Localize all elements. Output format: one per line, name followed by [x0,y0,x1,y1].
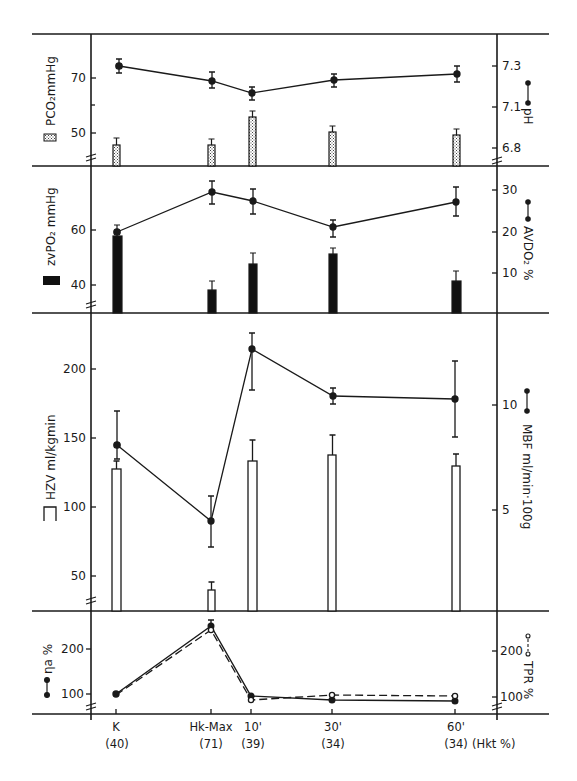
axis-breaks [86,154,502,710]
ticks [86,66,497,714]
panel-2-avdo2-line [114,181,459,237]
svg-text:(Hkt %): (Hkt %) [472,737,515,751]
panel-1-ph-line [116,59,460,100]
svg-text:pH: pH [521,108,535,125]
svg-text:TPR %: TPR % [521,660,535,699]
solid-bar-legend-icon [43,276,60,285]
svg-text:200: 200 [61,642,84,656]
svg-text:7.3: 7.3 [502,59,521,73]
svg-text:40: 40 [71,278,86,292]
svg-text:ηa %: ηa % [41,644,55,674]
panel-2-bars [113,225,461,313]
svg-text:10: 10 [502,398,517,412]
svg-text:30: 30 [502,183,517,197]
figure: 70 50 7.3 7.1 6.8 60 40 30 20 10 200 150… [0,0,577,781]
svg-text:(71): (71) [199,737,223,751]
svg-text:10': 10' [244,720,262,734]
svg-text:(34): (34) [321,737,345,751]
x-axis-labels: K Hk-Max 10' 30' 60' (40) (71) (39) (34)… [105,720,515,751]
svg-text:7.1: 7.1 [502,100,521,114]
svg-text:MBF ml/min·100g: MBF ml/min·100g [520,424,534,529]
svg-text:100: 100 [500,690,523,704]
panel-4-tpr-line [116,627,458,702]
svg-text:K: K [112,720,120,734]
svg-text:50: 50 [71,569,86,583]
svg-text:6.8: 6.8 [502,141,521,155]
dot-line-dot-legend-icon [45,678,50,698]
left-legend-p4: ηa % [41,644,55,698]
right-legend-p1: pH [521,81,535,125]
svg-text:60: 60 [71,223,86,237]
svg-text:100: 100 [61,687,84,701]
svg-text:20: 20 [502,225,517,239]
right-legend-p4: TPR % [521,634,535,699]
dot-line-dot-legend-icon [526,81,530,105]
left-legend-p2: zvPO₂ mmHg [43,187,60,285]
svg-text:(39): (39) [241,737,265,751]
svg-text:30': 30' [324,720,342,734]
svg-text:5: 5 [502,503,510,517]
left-legend-p1: PCO₂mmHg [44,56,58,141]
dot-line-dot-legend-icon [525,389,529,413]
panel-3-mbf-line [114,333,458,547]
svg-text:10: 10 [502,266,517,280]
svg-text:50: 50 [71,126,86,140]
svg-text:zvPO₂ mmHg: zvPO₂ mmHg [44,187,58,266]
circle-dash-circle-legend-icon [526,634,530,656]
right-legend-p2: AVDO₂ % [521,200,535,281]
svg-text:(40): (40) [105,737,129,751]
left-legend-p3: HZV ml/kgmin [44,414,58,521]
open-bar-legend-icon [44,507,56,521]
hatched-bar-legend-icon [44,134,56,141]
svg-text:AVDO₂ %: AVDO₂ % [521,226,535,280]
svg-text:100: 100 [63,500,86,514]
right-legend-p3: MBF ml/min·100g [520,389,534,530]
panel-4-eta-line [113,620,458,704]
svg-text:60': 60' [447,720,465,734]
svg-text:PCO₂mmHg: PCO₂mmHg [44,56,58,126]
svg-text:200: 200 [500,644,523,658]
svg-text:HZV ml/kgmin: HZV ml/kgmin [44,414,58,500]
svg-text:150: 150 [63,431,86,445]
panel-3-bars [112,435,460,611]
panel-1-bars [113,111,460,166]
svg-text:200: 200 [63,362,86,376]
svg-text:70: 70 [71,71,86,85]
svg-text:(34): (34) [444,737,468,751]
dot-line-dot-legend-icon [526,200,530,221]
panel-separators [32,34,549,720]
svg-text:Hk-Max: Hk-Max [189,720,232,734]
